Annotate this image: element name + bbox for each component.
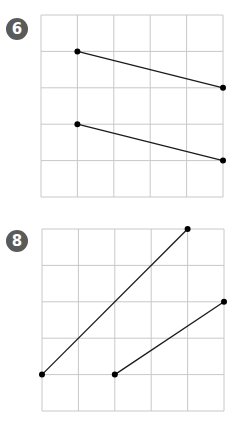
endpoint-dot xyxy=(185,226,191,232)
endpoint-dot xyxy=(112,372,118,378)
grid-diagram xyxy=(0,0,245,213)
puzzle-8: 8 xyxy=(0,213,245,426)
endpoint-dot xyxy=(221,299,227,305)
endpoint-dot xyxy=(39,372,45,378)
endpoint-dot xyxy=(220,158,226,164)
endpoint-dot xyxy=(220,85,226,91)
endpoint-dot xyxy=(74,48,80,54)
endpoint-dot xyxy=(74,121,80,127)
grid-diagram xyxy=(0,213,245,426)
puzzle-6: 6 xyxy=(0,0,245,213)
